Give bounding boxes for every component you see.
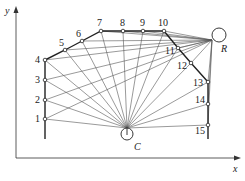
node-point-14: [206, 102, 210, 106]
hub-C-label: C: [134, 141, 141, 152]
x-axis-label: x: [232, 163, 238, 174]
y-axis-arrow-icon: [14, 6, 19, 13]
ray-to-R: [191, 40, 212, 63]
hub-R-label: R: [220, 43, 227, 54]
node-label-9: 9: [140, 17, 145, 28]
node-point-7: [99, 29, 103, 33]
node-label-13: 13: [193, 77, 203, 88]
node-point-2: [43, 98, 47, 102]
ray-to-R: [45, 40, 212, 60]
node-label-3: 3: [35, 74, 40, 85]
node-point-1: [43, 117, 47, 121]
rays: [45, 31, 212, 128]
node-label-6: 6: [76, 28, 81, 39]
node-label-1: 1: [35, 113, 40, 124]
ray-to-C: [65, 50, 127, 128]
node-point-4: [43, 58, 47, 62]
hub-R-circle: [212, 28, 226, 42]
mechanism-diagram: y x R C 123456789101112131415: [0, 0, 245, 181]
node-point-15: [206, 123, 210, 127]
node-label-2: 2: [35, 94, 40, 105]
node-point-13: [206, 80, 210, 84]
node-label-10: 10: [158, 17, 168, 28]
ray-to-R: [45, 40, 212, 119]
ray-to-R: [101, 31, 212, 40]
y-axis-label: y: [4, 5, 10, 16]
node-label-5: 5: [59, 37, 64, 48]
x-axis-arrow-icon: [234, 156, 241, 161]
node-point-5: [63, 48, 67, 52]
ray-to-R: [82, 40, 212, 41]
node-label-14: 14: [195, 94, 205, 105]
node-point-6: [80, 39, 84, 43]
ray-to-C: [101, 31, 127, 128]
node-label-7: 7: [97, 17, 102, 28]
node-point-11: [176, 46, 180, 50]
node-label-12: 12: [177, 60, 187, 71]
ray-to-C: [127, 48, 178, 128]
node-point-9: [141, 29, 145, 33]
node-point-10: [162, 29, 166, 33]
node-label-8: 8: [120, 17, 125, 28]
node-point-8: [121, 29, 125, 33]
node-label-4: 4: [35, 54, 40, 65]
ray-to-C: [127, 82, 208, 128]
node-label-15: 15: [195, 125, 205, 136]
node-label-11: 11: [165, 45, 175, 56]
node-point-12: [189, 61, 193, 65]
node-point-3: [43, 78, 47, 82]
